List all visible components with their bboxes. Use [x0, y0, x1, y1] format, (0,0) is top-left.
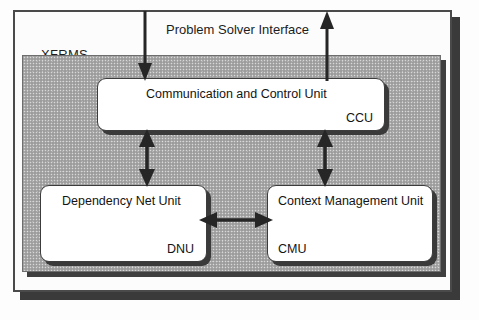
unit-acronym-ccu: CCU	[346, 111, 373, 125]
unit-title-cmu: Context Management Unit	[278, 194, 423, 208]
unit-title-ccu: Communication and Control Unit	[146, 87, 327, 101]
unit-box-ccu[interactable]: Communication and Control Unit CCU	[97, 78, 385, 131]
unit-box-dnu[interactable]: Dependency Net Unit DNU	[40, 185, 207, 262]
diagram-canvas: XFRMS Problem Solver Interface Communica…	[0, 0, 479, 320]
unit-acronym-dnu: DNU	[167, 242, 194, 256]
arrow-updown-icon	[138, 129, 156, 187]
arrow-updown-icon	[316, 129, 334, 187]
unit-title-dnu: Dependency Net Unit	[62, 194, 181, 208]
problem-solver-interface-label: Problem Solver Interface	[166, 22, 309, 37]
unit-box-cmu[interactable]: Context Management Unit CMU	[267, 185, 433, 262]
arrow-up-icon	[319, 11, 335, 81]
arrow-down-icon	[137, 11, 153, 81]
unit-acronym-cmu: CMU	[278, 242, 306, 256]
arrow-leftright-icon	[199, 211, 273, 229]
